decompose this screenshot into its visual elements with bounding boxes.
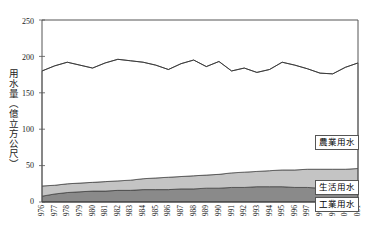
area-band-3 — [42, 59, 358, 186]
x-tick-label-1988: 988 — [190, 205, 198, 216]
y-tick-label-0: 0 — [8, 198, 34, 206]
y-tick-label-200: 200 — [8, 54, 34, 62]
y-axis-title: 用水量（億立方公尺） — [2, 44, 18, 194]
x-tick-label-1976: 976 — [38, 205, 46, 216]
x-tick-label-1977: 977 — [51, 205, 59, 216]
x-tick-label-1992: 992 — [240, 205, 248, 216]
x-tick-label-1979: 979 — [76, 205, 84, 216]
x-tick-label-1985: 985 — [152, 205, 160, 216]
x-tick-label-1987: 987 — [177, 205, 185, 216]
x-tick-label-1978: 978 — [63, 205, 71, 216]
x-tick-label-1983: 983 — [126, 205, 134, 216]
x-tick-label-1994: 994 — [266, 205, 274, 216]
x-tick-label-1986: 986 — [164, 205, 172, 216]
x-tick-label-1980: 980 — [89, 205, 97, 216]
x-tick-label-1996: 996 — [291, 205, 299, 216]
x-tick-label-1982: 982 — [114, 205, 122, 216]
legend-item-industrial[interactable]: 工業用水 — [315, 197, 359, 212]
x-tick-label-1990: 990 — [215, 205, 223, 216]
x-tick-label-1995: 995 — [278, 205, 286, 216]
chart-container: 用水量（億立方公尺） 250 200 150 100 50 0 97697797… — [0, 0, 380, 238]
legend-item-agricultural[interactable]: 農業用水 — [315, 135, 359, 150]
x-tick-label-1989: 989 — [202, 205, 210, 216]
x-tick-label-1997: 997 — [303, 205, 311, 216]
legend-item-domestic[interactable]: 生活用水 — [315, 180, 359, 195]
y-tick-label-150: 150 — [8, 90, 34, 98]
x-tick-label-1991: 991 — [228, 205, 236, 216]
y-tick-label-100: 100 — [8, 126, 34, 134]
x-tick-label-1984: 984 — [139, 205, 147, 216]
x-tick-label-1993: 993 — [253, 205, 261, 216]
x-tick-label-1981: 981 — [101, 205, 109, 216]
y-tick-label-50: 50 — [8, 162, 34, 170]
y-tick-label-250: 250 — [8, 18, 34, 26]
stacked-areas — [42, 59, 358, 202]
